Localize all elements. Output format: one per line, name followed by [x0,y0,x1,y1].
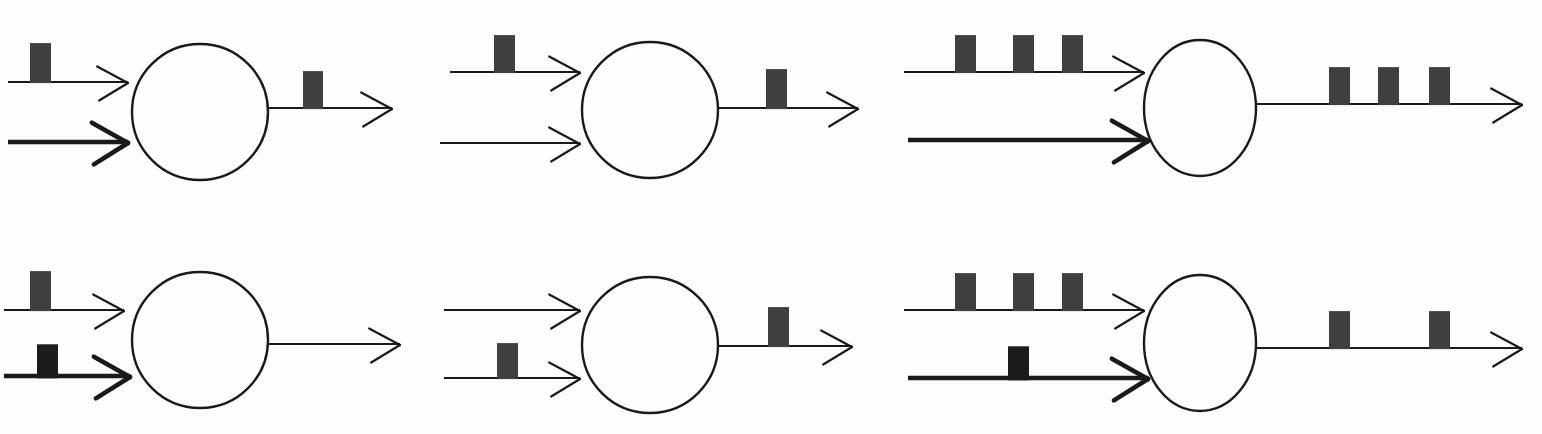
panel-6-input-excitatory-arrowhead-icon [1115,311,1144,329]
panel-5-input-excitatory-line [444,294,580,328]
panel-5-input-excitatory-secondary-line [444,343,580,396]
panel-5-output-axon-arrowhead-icon [821,330,852,347]
panel-2-output-axon-line [718,69,858,126]
panel-2-input-excitatory-arrowhead-icon [549,56,580,73]
panel-3-output-axon-arrowhead-icon [1491,88,1522,105]
panel-5 [444,277,852,413]
panel-3-input-excitatory-spike [1062,35,1083,73]
panel-1 [8,43,392,180]
figure-canvas [0,0,1542,434]
panel-4-input-excitatory-spike [30,271,51,311]
panel-6-input-inhibitory-arrowhead-icon [1114,379,1148,400]
panel-5-input-excitatory-arrowhead-icon [549,294,580,311]
panel-3-input-excitatory-line [904,35,1144,90]
panel-1-input-inhibitory-line [8,123,128,165]
panel-2-input-excitatory-spike [494,35,515,73]
panel-2-input-excitatory-secondary-arrowhead-icon [549,127,580,144]
panel-6-soma [1144,275,1256,411]
panel-1-input-excitatory-spike [30,43,51,83]
panel-3-input-inhibitory-line [908,121,1148,163]
panel-3-input-inhibitory-arrowhead-icon [1114,141,1148,162]
panel-4-input-inhibitory-line [4,344,130,398]
neuron-spike-diagram [0,0,1542,434]
panel-4-input-excitatory-line [4,271,124,328]
panel-4-input-inhibitory-spike [37,344,58,378]
panel-6-input-inhibitory-spike [1008,346,1029,380]
panel-1-output-axon-line [266,71,392,126]
panel-1-input-excitatory-arrowhead-icon [97,66,128,83]
panel-6-output-axon-line [1256,311,1522,366]
panel-3-output-axon-line [1256,67,1522,122]
panel-6 [904,273,1522,411]
panel-6-input-excitatory-spike [1013,273,1034,311]
panel-4-output-axon-arrowhead-icon [369,328,400,345]
panel-6-input-excitatory-spike [1062,273,1083,311]
panel-1-output-axon-spike [303,71,323,109]
panel-6-input-excitatory-spike [955,273,976,311]
panel-5-output-axon-arrowhead-icon [823,347,852,365]
panel-6-input-excitatory-arrowhead-icon [1113,294,1144,311]
panel-3-output-axon-arrowhead-icon [1493,105,1522,123]
panel-3-output-axon-spike [1329,67,1350,105]
panel-6-input-excitatory-line [904,273,1144,328]
panel-3-input-excitatory-arrowhead-icon [1113,56,1144,73]
panel-6-output-axon-arrowhead-icon [1493,349,1522,367]
panel-4-output-axon-line [266,328,400,362]
panel-2-input-excitatory-line [450,35,580,90]
panel-2 [440,35,858,178]
panel-5-input-excitatory-secondary-arrowhead-icon [551,379,580,397]
panel-4-output-axon-arrowhead-icon [371,345,400,363]
panel-4-input-excitatory-arrowhead-icon [95,311,124,329]
panel-6-output-axon-arrowhead-icon [1491,332,1522,349]
panel-1-input-inhibitory-arrowhead-icon [94,143,128,164]
panel-3-output-axon-spike [1429,67,1450,105]
panel-2-input-excitatory-arrowhead-icon [551,73,580,91]
panel-5-output-axon-spike [768,307,789,347]
panel-2-soma [582,42,718,178]
panel-5-input-excitatory-secondary-spike [497,343,518,379]
panel-6-output-axon-spike [1329,311,1350,349]
panel-3-input-excitatory-spike [1013,35,1034,73]
panel-3-output-axon-spike [1378,67,1399,105]
panel-3 [904,35,1522,176]
panel-1-soma [132,44,268,180]
panel-5-output-axon-line [718,307,852,364]
panel-1-output-axon-arrowhead-icon [363,109,392,127]
panel-2-input-excitatory-secondary-arrowhead-icon [551,144,580,162]
panel-2-output-axon-spike [766,69,787,109]
panel-5-input-excitatory-secondary-arrowhead-icon [549,362,580,379]
panel-4-soma [132,272,268,408]
panel-2-output-axon-arrowhead-icon [829,109,858,127]
panel-1-input-excitatory-arrowhead-icon [99,83,128,101]
panel-2-output-axon-arrowhead-icon [827,92,858,109]
panel-3-input-excitatory-arrowhead-icon [1115,73,1144,91]
panel-5-soma [582,277,718,413]
panel-4-input-inhibitory-arrowhead-icon [96,377,130,398]
panel-3-input-excitatory-spike [955,35,976,73]
panel-1-input-excitatory-line [8,43,128,100]
panel-6-output-axon-spike [1429,311,1450,349]
panel-2-input-excitatory-secondary-line [440,127,580,161]
panel-4 [4,271,400,408]
panel-5-input-excitatory-arrowhead-icon [551,311,580,329]
panel-4-input-excitatory-arrowhead-icon [93,294,124,311]
panel-3-soma [1144,40,1256,176]
panel-6-input-inhibitory-line [908,346,1148,400]
panel-1-output-axon-arrowhead-icon [361,92,392,109]
